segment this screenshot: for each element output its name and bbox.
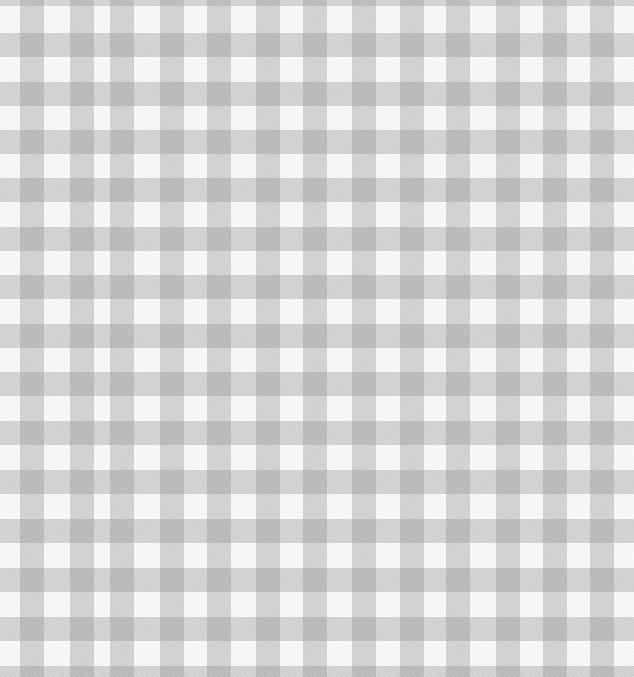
- horizontal-stripe: [0, 470, 634, 494]
- horizontal-stripe: [0, 275, 634, 299]
- horizontal-stripe: [0, 130, 634, 154]
- horizontal-stripe: [0, 617, 634, 641]
- horizontal-stripe: [0, 372, 634, 396]
- horizontal-stripe: [0, 82, 634, 106]
- horizontal-stripe: [0, 519, 634, 543]
- horizontal-stripe: [0, 568, 634, 592]
- gingham-pattern: [0, 0, 634, 677]
- horizontal-stripe: [0, 227, 634, 251]
- horizontal-stripe: [0, 666, 634, 677]
- horizontal-stripe: [0, 178, 634, 202]
- horizontal-stripe: [0, 33, 634, 57]
- horizontal-stripe: [0, 324, 634, 348]
- horizontal-stripe: [0, 421, 634, 445]
